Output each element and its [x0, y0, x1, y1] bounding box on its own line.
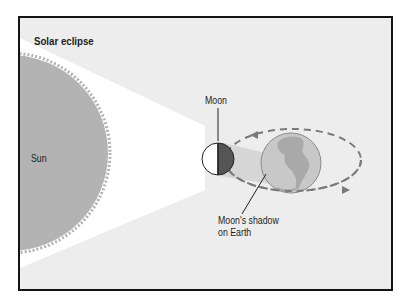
earth-globe-icon [261, 133, 321, 193]
diagram-frame: Solar eclipse Sun Moon Moon's shadow on … [18, 16, 393, 291]
arrow-left-icon [250, 131, 258, 139]
moon-half-lit-icon [202, 143, 234, 175]
sun-label: Sun [31, 153, 47, 164]
moon-label: Moon [205, 95, 227, 106]
arrow-right-icon [342, 186, 350, 194]
diagram-title: Solar eclipse [34, 36, 94, 47]
eclipse-scene [20, 18, 391, 289]
shadow-label-line2: on Earth [218, 227, 251, 238]
shadow-label-line1: Moon's shadow [218, 215, 279, 226]
